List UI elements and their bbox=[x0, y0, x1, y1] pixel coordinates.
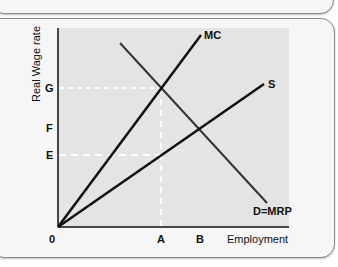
x-tick-b: B bbox=[196, 233, 204, 245]
mc-label: MC bbox=[204, 29, 221, 41]
labor-market-diagram: MC S D=MRP G F E Real Wage rate 0 A B Em… bbox=[0, 0, 338, 267]
d-mrp-label: D=MRP bbox=[253, 205, 292, 217]
x-tick-origin: 0 bbox=[49, 233, 55, 245]
s-label: S bbox=[268, 78, 275, 90]
y-tick-e: E bbox=[46, 149, 53, 161]
x-axis-label: Employment bbox=[227, 233, 288, 245]
y-tick-f: F bbox=[46, 122, 53, 134]
y-tick-g: G bbox=[45, 82, 54, 94]
x-tick-a: A bbox=[157, 233, 165, 245]
plot-area bbox=[58, 28, 289, 227]
y-axis-label: Real Wage rate bbox=[30, 26, 42, 102]
